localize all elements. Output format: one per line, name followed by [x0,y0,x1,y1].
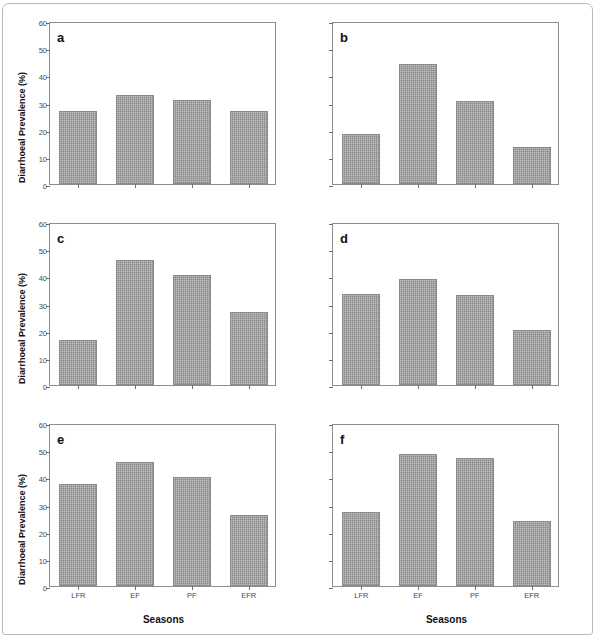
y-tick-label-c-20: 20 [39,328,47,337]
y-tick-label-e-30: 30 [39,502,47,511]
y-tick-d-60 [329,224,333,225]
panel-b: b [332,22,559,185]
bar-f-EFR [513,521,551,586]
x-tick-label-f-LFR: LFR [354,591,368,600]
x-tick-e-EFR [249,586,250,590]
x-tick-a-PF [192,184,193,188]
bar-d-LFR [342,294,380,385]
bar-e-PF [173,477,211,586]
x-tick-a-LFR [78,184,79,188]
bar-d-EF [399,279,437,385]
x-tick-b-LFR [361,184,362,188]
figure-panel-grid: a0102030405060Diarrhoeal Prevalence (%)b… [0,0,597,638]
bar-b-EF [399,64,437,184]
panel-a: a0102030405060Diarrhoeal Prevalence (%) [49,22,276,185]
x-tick-b-EF [418,184,419,188]
panel-d: d [332,223,559,386]
x-tick-c-EFR [249,385,250,389]
plot-area-c: c0102030405060Diarrhoeal Prevalence (%) [49,223,276,386]
bar-b-LFR [342,134,380,184]
bar-f-EF [399,454,437,586]
x-tick-c-LFR [78,385,79,389]
x-tick-c-EF [135,385,136,389]
x-tick-label-f-EFR: EFR [524,591,539,600]
y-tick-d-30 [329,306,333,307]
panel-f: fLFREFPFEFRSeasons [332,424,559,587]
bar-c-EFR [230,312,268,385]
y-tick-d-40 [329,278,333,279]
x-axis-title-e: Seasons [143,614,184,625]
bar-b-PF [456,101,494,184]
x-tick-d-EF [418,385,419,389]
y-axis-title-c: Diarrhoeal Prevalence (%) [17,273,27,384]
y-tick-b-50 [329,50,333,51]
x-tick-b-EFR [532,184,533,188]
x-tick-f-PF [475,586,476,590]
y-tick-label-c-50: 50 [39,247,47,256]
bar-c-PF [173,275,211,385]
plot-area-d: d [332,223,559,386]
x-tick-b-PF [475,184,476,188]
y-tick-label-a-60: 60 [39,19,47,28]
bar-e-EFR [230,515,268,586]
plot-area-b: b [332,22,559,185]
y-tick-label-c-40: 40 [39,274,47,283]
y-tick-label-a-10: 10 [39,154,47,163]
x-tick-d-LFR [361,385,362,389]
y-axis-title-a: Diarrhoeal Prevalence (%) [17,72,27,183]
y-tick-f-0 [329,588,333,589]
y-tick-d-0 [329,387,333,388]
subplot-grid: a0102030405060Diarrhoeal Prevalence (%)b… [0,0,597,638]
x-tick-label-f-EF: EF [413,591,423,600]
y-tick-b-40 [329,77,333,78]
y-tick-d-50 [329,251,333,252]
y-tick-b-60 [329,23,333,24]
y-tick-label-c-10: 10 [39,355,47,364]
y-tick-label-a-30: 30 [39,100,47,109]
x-tick-e-PF [192,586,193,590]
x-tick-f-LFR [361,586,362,590]
y-tick-label-e-60: 60 [39,421,47,430]
bar-e-EF [116,462,154,586]
y-tick-label-a-50: 50 [39,46,47,55]
y-tick-label-e-40: 40 [39,475,47,484]
panel-label-e: e [57,432,64,447]
y-tick-f-40 [329,479,333,480]
y-tick-f-30 [329,507,333,508]
plot-area-f: fLFREFPFEFRSeasons [332,424,559,587]
y-tick-f-10 [329,561,333,562]
y-tick-label-c-0: 0 [43,383,47,392]
x-tick-f-EF [418,586,419,590]
y-tick-label-a-40: 40 [39,73,47,82]
bar-a-EF [116,95,154,184]
bar-c-EF [116,260,154,386]
bar-a-LFR [59,111,97,184]
panel-label-a: a [57,30,64,45]
bar-f-PF [456,458,494,586]
panel-label-c: c [57,231,64,246]
x-tick-f-EFR [532,586,533,590]
y-tick-label-c-30: 30 [39,301,47,310]
bar-b-EFR [513,147,551,184]
x-axis-title-f: Seasons [426,614,467,625]
x-tick-c-PF [192,385,193,389]
x-tick-label-e-LFR: LFR [71,591,85,600]
x-tick-e-LFR [78,586,79,590]
panel-label-f: f [340,432,344,447]
panel-label-b: b [340,30,348,45]
y-tick-label-a-0: 0 [43,182,47,191]
panel-c: c0102030405060Diarrhoeal Prevalence (%) [49,223,276,386]
y-tick-b-10 [329,159,333,160]
plot-area-a: a0102030405060Diarrhoeal Prevalence (%) [49,22,276,185]
y-tick-label-e-0: 0 [43,584,47,593]
bar-c-LFR [59,340,97,385]
x-tick-d-EFR [532,385,533,389]
y-tick-b-0 [329,186,333,187]
y-tick-f-60 [329,425,333,426]
x-tick-label-f-PF: PF [470,591,480,600]
y-tick-b-30 [329,105,333,106]
y-tick-label-e-10: 10 [39,556,47,565]
y-tick-label-c-60: 60 [39,220,47,229]
y-tick-f-20 [329,534,333,535]
x-tick-a-EF [135,184,136,188]
